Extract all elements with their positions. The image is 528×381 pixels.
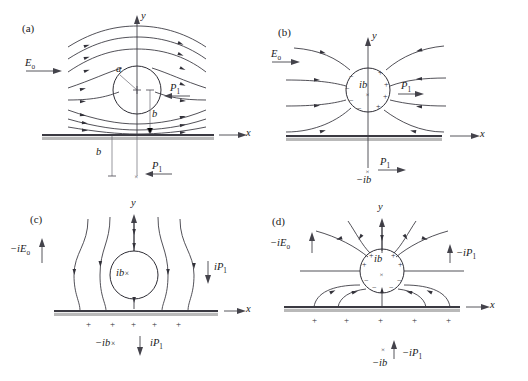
panel-a-tag: (a): [22, 22, 34, 34]
panel-a-x-axis: [219, 132, 247, 138]
svg-text:+: +: [398, 260, 403, 269]
svg-text:+: +: [446, 315, 451, 325]
svg-text:+: +: [378, 68, 383, 77]
panel-d: + + + + − − − − × + + +: [264, 191, 528, 381]
panel-b-image-stem: ×: [365, 137, 369, 176]
svg-text:+: +: [384, 80, 389, 89]
svg-text:+: +: [176, 319, 181, 329]
svg-text:+: +: [152, 319, 157, 329]
panel-d-y-label: y: [378, 201, 383, 212]
panel-a-image-depth-dimension: ×: [108, 136, 138, 181]
panel-c-field-label: −iEo: [10, 243, 30, 257]
panel-c-x-label: x: [246, 303, 251, 314]
panel-d-image-label: −ib: [372, 357, 387, 368]
svg-text:−: −: [349, 72, 354, 81]
panel-d-image-dipole-arrow: [391, 340, 397, 359]
panel-b-charge-label: ib: [359, 79, 367, 90]
svg-text:×: ×: [134, 173, 138, 181]
panel-a-image-dipole-label: P1: [152, 160, 162, 174]
panel-b-image-label: −ib: [356, 174, 371, 185]
panel-c-dipole-arrow: [205, 261, 211, 284]
panel-c-field-arrow: [39, 238, 45, 263]
panel-b-graphics: − − − − + + + + × ×: [264, 0, 528, 190]
panel-c-dipole-label: iP1: [214, 261, 227, 275]
svg-text:+: +: [383, 92, 388, 101]
panel-b-center-cross: ×: [365, 91, 369, 99]
panel-c-y-label: y: [131, 197, 136, 208]
panel-d-ground-plane: [284, 307, 460, 310]
panel-b-image-dipole-label: P1: [380, 156, 390, 170]
panel-c-ground-plane: [54, 311, 218, 314]
panel-b-dipole-label: P1: [401, 80, 411, 94]
panel-c-image-dipole-arrow: [137, 336, 143, 356]
figure-container: × (a) y x Eo a b b P1 P1: [0, 0, 528, 381]
panel-a-height-label: b: [152, 108, 157, 119]
svg-text:+: +: [344, 315, 349, 325]
panel-c: + + + + + (c) y x −iE: [0, 191, 264, 381]
panel-a-y-label: y: [141, 10, 146, 21]
panel-d-center-cross: ×: [379, 271, 383, 279]
panel-d-x-axis: [466, 304, 490, 310]
panel-a-graphics: ×: [0, 0, 264, 190]
svg-text:−: −: [397, 276, 402, 285]
panel-d-field-label: −iEo: [270, 237, 290, 251]
svg-text:−: −: [372, 283, 377, 292]
panel-d-field-arrow: [309, 232, 315, 253]
panel-a-y-axis: [134, 15, 140, 135]
panel-c-ground-charges: + + + + +: [86, 319, 181, 329]
svg-text:+: +: [412, 315, 417, 325]
svg-text:+: +: [131, 319, 136, 329]
panel-d-ground-charges: + + + + +: [312, 315, 451, 325]
panel-d-dipole-label: −iP1: [456, 247, 476, 261]
panel-d-graphics: + + + + − − − − × + + +: [264, 191, 528, 381]
svg-text:−: −: [389, 283, 394, 292]
svg-text:+: +: [391, 251, 396, 260]
svg-text:−: −: [364, 276, 369, 285]
panel-a-ground-plane: [42, 135, 214, 138]
panel-b-ground-plane: [286, 136, 442, 139]
svg-text:+: +: [312, 315, 317, 325]
panel-b-field-label: Eo: [271, 48, 281, 62]
panel-a-radius-line: [120, 75, 137, 90]
svg-text:+: +: [362, 260, 367, 269]
svg-text:+: +: [86, 319, 91, 329]
panel-c-image-dipole-label: iP1: [150, 337, 163, 351]
panel-b-y-label: y: [372, 30, 377, 41]
panel-d-dipole-arrow: [447, 244, 453, 263]
panel-c-tag: (c): [30, 213, 42, 225]
panel-a-field-label: Eo: [25, 57, 35, 71]
panel-c-image-label: −ib ×: [95, 337, 115, 348]
svg-text:−: −: [349, 96, 354, 105]
panel-b-tag: (b): [278, 26, 291, 38]
panel-b-x-label: x: [480, 128, 485, 139]
svg-text:−: −: [345, 84, 350, 93]
panel-d-image-cross: ×: [381, 346, 385, 354]
panel-c-x-axis: [224, 308, 246, 314]
panel-a-x-label: x: [246, 127, 251, 138]
panel-d-image-dipole-label: −iP1: [402, 347, 422, 361]
panel-a: × (a) y x Eo a b b P1 P1: [0, 0, 264, 190]
panel-b: − − − − + + + + × ×: [264, 0, 528, 190]
panel-d-tag: (d): [272, 215, 285, 227]
panel-a-image-depth-label: b: [96, 146, 101, 157]
panel-b-x-axis: [450, 133, 480, 139]
panel-a-dipole-label: P1: [170, 82, 180, 96]
svg-text:+: +: [378, 315, 383, 325]
svg-text:+: +: [376, 102, 381, 111]
panel-a-radius-label: a: [116, 63, 121, 74]
panel-d-x-label: x: [490, 299, 495, 310]
svg-text:−: −: [357, 104, 362, 113]
svg-text:+: +: [110, 319, 115, 329]
panel-d-charge-label: ib: [374, 253, 382, 264]
panel-c-charge-label: ib ×: [116, 267, 129, 278]
